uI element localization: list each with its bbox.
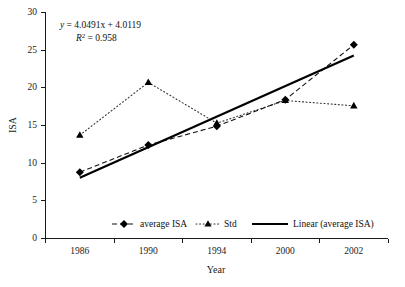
x-tick-label-2002: 2002	[344, 246, 363, 256]
legend-label-average-isa: average ISA	[140, 219, 187, 229]
x-tick-label-1986: 1986	[70, 246, 89, 256]
r-squared-value: = 0.958	[85, 33, 117, 43]
x-tick-label-1990: 1990	[139, 246, 158, 256]
y-axis-ticks	[41, 13, 46, 239]
chart-legend: average ISA Std Linear (average ISA)	[112, 219, 374, 230]
series-line-average-isa	[80, 45, 354, 172]
chart-container: 30 25 20 15 10 5 0 ISA 1986 1990 1994 20…	[0, 0, 405, 287]
legend-marker-std	[204, 220, 211, 226]
x-axis-title: Year	[207, 264, 226, 275]
y-tick-label-10: 10	[28, 158, 38, 168]
y-tick-label-20: 20	[28, 82, 38, 92]
r-squared-label: R2 = 0.958	[75, 32, 117, 44]
x-axis-ticks	[46, 239, 389, 244]
legend-label-std: Std	[224, 219, 237, 229]
x-tick-label-2000: 2000	[276, 246, 295, 256]
regression-equation-label: y = 4.0491x + 4.0119	[59, 20, 141, 30]
isa-year-line-chart: 30 25 20 15 10 5 0 ISA 1986 1990 1994 20…	[0, 0, 405, 287]
legend-label-linear-trend: Linear (average ISA)	[293, 219, 374, 230]
series-markers-average-isa	[76, 41, 358, 176]
equation-body: = 4.0491x + 4.0119	[64, 20, 141, 30]
y-tick-label-15: 15	[28, 120, 38, 130]
series-line-linear-trend	[80, 56, 354, 178]
y-tick-label-30: 30	[28, 7, 38, 17]
legend-marker-average-isa	[120, 220, 128, 228]
y-tick-label-5: 5	[32, 195, 37, 205]
y-axis-title: ISA	[7, 116, 18, 133]
x-tick-label-1994: 1994	[207, 246, 226, 256]
y-tick-label-0: 0	[32, 233, 37, 243]
y-tick-label-25: 25	[28, 45, 38, 55]
